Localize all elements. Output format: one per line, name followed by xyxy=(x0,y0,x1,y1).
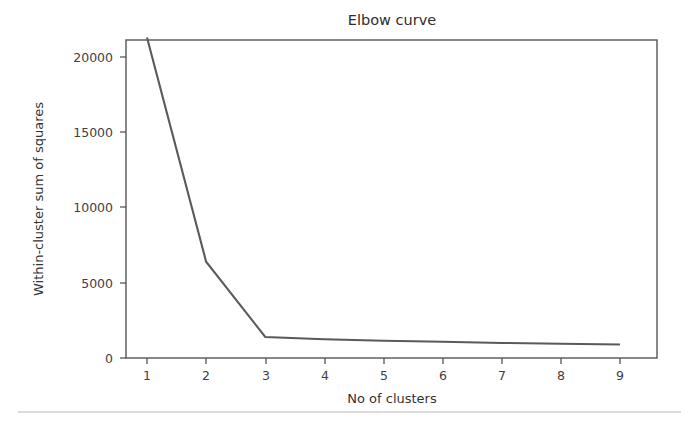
figure-canvas: Elbow curve 20000 15000 10000 5000 0 xyxy=(0,0,699,428)
x-tick-label-1: 1 xyxy=(143,368,151,383)
x-axis-title: No of clusters xyxy=(347,391,437,406)
plot-area-border xyxy=(126,40,657,358)
x-axis-tick-labels: 1 2 3 4 5 6 7 8 9 xyxy=(143,368,624,383)
chart-title: Elbow curve xyxy=(348,12,436,28)
x-tick-label-6: 6 xyxy=(439,368,447,383)
y-tick-label-15000: 15000 xyxy=(73,125,113,140)
y-axis-tick-labels: 20000 15000 10000 5000 0 xyxy=(73,50,113,366)
x-tick-label-5: 5 xyxy=(380,368,388,383)
x-axis-ticks xyxy=(147,358,620,364)
x-tick-label-4: 4 xyxy=(321,368,329,383)
data-series-line xyxy=(147,37,620,344)
x-tick-label-9: 9 xyxy=(616,368,624,383)
x-tick-label-7: 7 xyxy=(498,368,506,383)
elbow-curve-chart: Elbow curve 20000 15000 10000 5000 0 xyxy=(0,0,699,428)
x-tick-label-2: 2 xyxy=(202,368,210,383)
y-axis-ticks xyxy=(120,57,126,358)
y-tick-label-0: 0 xyxy=(105,351,113,366)
x-tick-label-8: 8 xyxy=(557,368,565,383)
y-tick-label-20000: 20000 xyxy=(73,50,113,65)
y-axis-title: Within-cluster sum of squares xyxy=(31,102,46,296)
x-tick-label-3: 3 xyxy=(262,368,270,383)
y-tick-label-5000: 5000 xyxy=(81,276,113,291)
y-tick-label-10000: 10000 xyxy=(73,200,113,215)
